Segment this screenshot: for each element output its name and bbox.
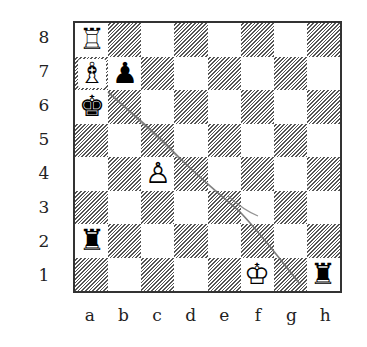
- square-e3: [208, 191, 241, 225]
- rank-label-8: 8: [34, 27, 54, 47]
- rank-label-5: 5: [34, 129, 54, 149]
- square-c8: [141, 23, 174, 57]
- file-label-f: f: [248, 305, 268, 325]
- white-pawn-icon: ♙: [145, 159, 171, 188]
- square-c5: [141, 124, 174, 158]
- square-d3: [174, 191, 207, 225]
- square-g1: [274, 258, 307, 292]
- square-a4: [75, 157, 108, 191]
- black-rook-icon: ♜: [79, 226, 105, 255]
- square-f7: [241, 57, 274, 91]
- square-c2: [141, 224, 174, 258]
- rank-label-7: 7: [34, 61, 54, 81]
- square-f1: ♔: [241, 258, 274, 292]
- file-label-e: e: [214, 305, 234, 325]
- square-f6: [241, 90, 274, 124]
- black-pawn-icon: ♟: [112, 59, 138, 88]
- square-b1: [108, 258, 141, 292]
- square-f2: [241, 224, 274, 258]
- square-a1: [75, 258, 108, 292]
- square-g4: [274, 157, 307, 191]
- file-label-d: d: [181, 305, 201, 325]
- square-a5: [75, 124, 108, 158]
- square-a3: [75, 191, 108, 225]
- square-b3: [108, 191, 141, 225]
- square-f8: [241, 23, 274, 57]
- black-king-icon: ♚: [79, 92, 105, 121]
- white-rook-icon: ♖: [79, 25, 105, 54]
- file-label-h: h: [315, 305, 335, 325]
- square-c7: [141, 57, 174, 91]
- square-d1: [174, 258, 207, 292]
- file-label-g: g: [282, 305, 302, 325]
- square-g2: [274, 224, 307, 258]
- square-c1: [141, 258, 174, 292]
- square-h2: [307, 224, 340, 258]
- square-h4: [307, 157, 340, 191]
- square-h6: [307, 90, 340, 124]
- square-e8: [208, 23, 241, 57]
- square-g3: [274, 191, 307, 225]
- black-rook-icon: ♜: [310, 260, 336, 289]
- square-b7: ♟: [108, 57, 141, 91]
- square-c6: [141, 90, 174, 124]
- square-f3: [241, 191, 274, 225]
- file-label-b: b: [113, 305, 133, 325]
- square-a6: ♚: [75, 90, 108, 124]
- square-d8: [174, 23, 207, 57]
- square-f4: [241, 157, 274, 191]
- square-d7: [174, 57, 207, 91]
- rank-label-2: 2: [34, 231, 54, 251]
- square-b8: [108, 23, 141, 57]
- square-g7: [274, 57, 307, 91]
- square-g5: [274, 124, 307, 158]
- square-b2: [108, 224, 141, 258]
- square-e7: [208, 57, 241, 91]
- square-d4: [174, 157, 207, 191]
- square-c3: [141, 191, 174, 225]
- square-h1: ♜: [307, 258, 340, 292]
- square-e2: [208, 224, 241, 258]
- square-c4: ♙: [141, 157, 174, 191]
- square-b6: [108, 90, 141, 124]
- square-a7: ♗: [75, 57, 108, 91]
- square-e5: [208, 124, 241, 158]
- chess-board: ♖♗♟♚♙♜♔♜: [73, 21, 342, 293]
- rank-label-3: 3: [34, 197, 54, 217]
- rank-label-4: 4: [34, 163, 54, 183]
- white-king-icon: ♔: [244, 260, 270, 289]
- file-label-a: a: [80, 305, 100, 325]
- square-d6: [174, 90, 207, 124]
- rank-label-1: 1: [34, 265, 54, 285]
- square-d5: [174, 124, 207, 158]
- square-f5: [241, 124, 274, 158]
- rank-label-6: 6: [34, 95, 54, 115]
- square-e1: [208, 258, 241, 292]
- square-h5: [307, 124, 340, 158]
- square-h7: [307, 57, 340, 91]
- square-g8: [274, 23, 307, 57]
- square-h3: [307, 191, 340, 225]
- square-h8: [307, 23, 340, 57]
- file-label-c: c: [147, 305, 167, 325]
- square-b4: [108, 157, 141, 191]
- square-e6: [208, 90, 241, 124]
- white-bishop-icon: ♗: [78, 59, 106, 88]
- square-a2: ♜: [75, 224, 108, 258]
- square-e4: [208, 157, 241, 191]
- square-g6: [274, 90, 307, 124]
- square-a8: ♖: [75, 23, 108, 57]
- square-b5: [108, 124, 141, 158]
- square-d2: [174, 224, 207, 258]
